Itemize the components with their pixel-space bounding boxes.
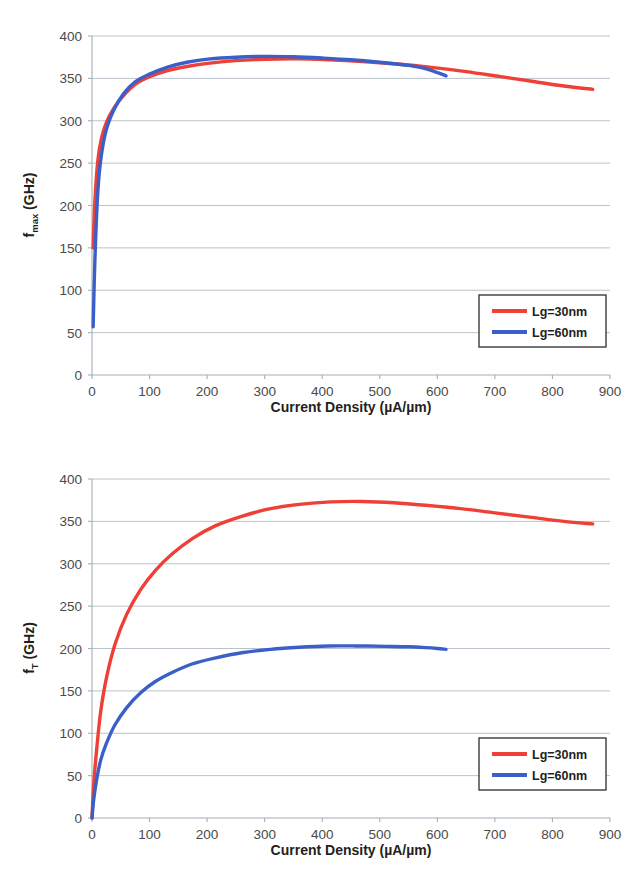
- y-tick-label: 100: [59, 283, 82, 298]
- x-tick-label: 400: [311, 827, 334, 842]
- y-axis-title-sub: max: [29, 213, 40, 233]
- chart-ft-gridlines: [92, 479, 610, 776]
- chart-ft-ytick-labels: 050100150200250300350400: [59, 472, 82, 826]
- x-tick-label: 700: [484, 827, 507, 842]
- y-tick-label: 150: [59, 241, 82, 256]
- x-tick-label: 900: [599, 384, 622, 399]
- y-tick-label: 250: [59, 599, 82, 614]
- legend-label: Lg=60nm: [532, 326, 587, 340]
- y-tick-label: 0: [74, 811, 82, 826]
- chart-fmax-ytick-labels: 050100150200250300350400: [59, 29, 82, 383]
- chart-ft-svg: 050100150200250300350400 010020030040050…: [0, 443, 635, 883]
- x-tick-label: 300: [253, 384, 276, 399]
- chart-ft: 050100150200250300350400 010020030040050…: [0, 443, 635, 883]
- y-tick-label: 150: [59, 684, 82, 699]
- chart-ft-legend: Lg=30nmLg=60nm: [479, 738, 606, 790]
- chart-fmax-x-axis-title: Current Density (µA/µm): [271, 399, 432, 415]
- chart-fmax-y-axis-title: fmax (GHz): [21, 173, 40, 238]
- y-axis-title-unit: (GHz): [21, 622, 37, 663]
- x-tick-label: 400: [311, 384, 334, 399]
- chart-fmax: 050100150200250300350400 010020030040050…: [0, 0, 635, 440]
- x-tick-label: 700: [484, 384, 507, 399]
- y-tick-label: 100: [59, 726, 82, 741]
- x-tick-label: 500: [369, 827, 392, 842]
- chart-ft-xtick-labels: 0100200300400500600700800900: [88, 827, 621, 842]
- chart-fmax-legend: Lg=30nmLg=60nm: [479, 295, 606, 347]
- series-line-lg-60nm: [93, 56, 446, 326]
- legend-label: Lg=60nm: [532, 769, 587, 783]
- y-tick-label: 400: [59, 29, 82, 44]
- chart-ft-x-axis-title: Current Density (µA/µm): [271, 842, 432, 858]
- legend-label: Lg=30nm: [532, 305, 587, 319]
- x-tick-label: 300: [253, 827, 276, 842]
- legend-label: Lg=30nm: [532, 748, 587, 762]
- figure-page: 050100150200250300350400 010020030040050…: [0, 0, 635, 885]
- svg-text:fmax (GHz): fmax (GHz): [21, 173, 40, 238]
- y-tick-label: 200: [59, 199, 82, 214]
- chart-fmax-series: [93, 56, 593, 326]
- x-tick-label: 0: [88, 384, 96, 399]
- y-tick-label: 200: [59, 642, 82, 657]
- y-tick-label: 350: [59, 71, 82, 86]
- y-tick-label: 0: [74, 368, 82, 383]
- x-tick-label: 600: [426, 384, 449, 399]
- y-tick-label: 400: [59, 472, 82, 487]
- y-tick-label: 350: [59, 514, 82, 529]
- y-tick-label: 300: [59, 114, 82, 129]
- x-tick-label: 800: [541, 384, 564, 399]
- x-tick-label: 500: [369, 384, 392, 399]
- y-tick-label: 50: [67, 769, 82, 784]
- x-tick-label: 100: [138, 827, 161, 842]
- series-line-lg-60nm: [92, 646, 446, 818]
- x-tick-label: 800: [541, 827, 564, 842]
- y-tick-label: 50: [67, 326, 82, 341]
- x-tick-label: 200: [196, 384, 219, 399]
- chart-ft-y-axis-title: fT (GHz): [21, 622, 40, 674]
- x-tick-label: 100: [138, 384, 161, 399]
- x-tick-label: 600: [426, 827, 449, 842]
- y-tick-label: 300: [59, 557, 82, 572]
- x-tick-label: 900: [599, 827, 622, 842]
- chart-fmax-svg: 050100150200250300350400 010020030040050…: [0, 0, 635, 440]
- x-tick-label: 0: [88, 827, 96, 842]
- chart-fmax-xtick-labels: 0100200300400500600700800900: [88, 384, 621, 399]
- svg-text:fT (GHz): fT (GHz): [21, 622, 40, 674]
- series-line-lg-30nm: [93, 59, 593, 248]
- x-tick-label: 200: [196, 827, 219, 842]
- y-axis-title-unit: (GHz): [21, 173, 37, 214]
- y-tick-label: 250: [59, 156, 82, 171]
